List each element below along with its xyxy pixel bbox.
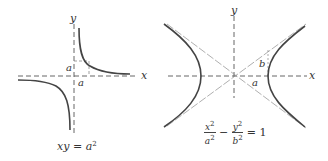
- right-x-label: x: [309, 70, 315, 81]
- left-caption: xy = a2: [57, 141, 97, 152]
- diagram-graphics: [0, 0, 328, 161]
- hyperbola-diagram: y x a a xy = a2 y x b a x2 a2 − y2 b2 = …: [0, 0, 328, 161]
- fraction-x-over-a: x2 a2: [204, 119, 216, 146]
- right-caption: x2 a2 − y2 b2 = 1: [204, 119, 267, 146]
- right-b-label: b: [259, 59, 265, 69]
- left-y-mark-label: a: [66, 63, 72, 73]
- left-branch-lower: [18, 80, 70, 130]
- left-x-label: x: [141, 70, 147, 81]
- caption-eq: =: [247, 126, 256, 139]
- caption-lhs: xy: [57, 140, 69, 153]
- left-y-label: y: [70, 13, 76, 24]
- left-branch: [164, 24, 201, 127]
- caption-rhs: 1: [260, 126, 267, 139]
- caption-exp: 2: [92, 140, 96, 148]
- left-branch-upper: [79, 28, 130, 74]
- left-x-mark-label: a: [78, 78, 84, 88]
- right-y-label: y: [231, 5, 237, 16]
- caption-eq: =: [73, 140, 82, 153]
- right-branch: [268, 26, 305, 127]
- fraction-y-over-b: y2 b2: [232, 119, 244, 146]
- right-a-label: a: [252, 78, 258, 88]
- caption-minus: −: [219, 126, 228, 139]
- right-figure: [164, 16, 307, 128]
